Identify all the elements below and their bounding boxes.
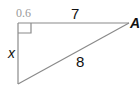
label-top-left-value: 0.6 [16,6,31,20]
label-left-side: x [7,45,16,61]
label-top-side: 7 [71,5,79,22]
right-angle-marker [18,23,31,33]
hypotenuse [18,23,129,84]
label-hypotenuse: 8 [76,53,84,70]
label-vertex-a: A [129,15,140,31]
triangle-diagram: 0.6 7 A x 8 [0,0,140,95]
